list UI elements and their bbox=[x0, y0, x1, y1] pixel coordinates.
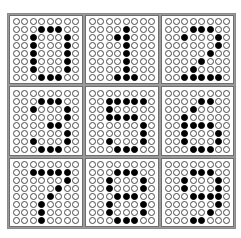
empty-dot-icon bbox=[97, 18, 104, 25]
empty-dot-icon bbox=[114, 106, 121, 113]
empty-dot-icon bbox=[123, 122, 130, 129]
filled-dot-icon bbox=[106, 114, 113, 121]
empty-dot-icon bbox=[97, 185, 104, 192]
empty-dot-icon bbox=[64, 26, 71, 33]
empty-dot-icon bbox=[131, 18, 138, 25]
empty-dot-icon bbox=[165, 193, 172, 200]
empty-dot-icon bbox=[38, 138, 45, 145]
empty-dot-icon bbox=[97, 74, 104, 81]
empty-dot-icon bbox=[13, 122, 20, 129]
empty-dot-icon bbox=[173, 161, 180, 168]
filled-dot-icon bbox=[47, 169, 54, 176]
empty-dot-icon bbox=[13, 98, 20, 105]
empty-dot-icon bbox=[181, 169, 188, 176]
empty-dot-icon bbox=[72, 185, 79, 192]
filled-dot-icon bbox=[215, 74, 222, 81]
empty-dot-icon bbox=[173, 130, 180, 137]
filled-dot-icon bbox=[64, 138, 71, 145]
filled-dot-icon bbox=[207, 74, 214, 81]
empty-dot-icon bbox=[215, 98, 222, 105]
empty-dot-icon bbox=[89, 42, 96, 49]
filled-dot-icon bbox=[64, 66, 71, 73]
empty-dot-icon bbox=[13, 177, 20, 184]
filled-dot-icon bbox=[207, 26, 214, 33]
empty-dot-icon bbox=[89, 177, 96, 184]
filled-dot-icon bbox=[55, 122, 62, 129]
empty-dot-icon bbox=[21, 217, 28, 224]
empty-dot-icon bbox=[89, 130, 96, 137]
filled-dot-icon bbox=[47, 146, 54, 153]
empty-dot-icon bbox=[72, 74, 79, 81]
filled-dot-icon bbox=[123, 193, 130, 200]
empty-dot-icon bbox=[47, 209, 54, 216]
empty-dot-icon bbox=[198, 18, 205, 25]
empty-dot-icon bbox=[21, 201, 28, 208]
filled-dot-icon bbox=[123, 42, 130, 49]
filled-dot-icon bbox=[123, 26, 130, 33]
filled-dot-icon bbox=[30, 106, 37, 113]
filled-dot-icon bbox=[123, 98, 130, 105]
empty-dot-icon bbox=[207, 138, 214, 145]
empty-dot-icon bbox=[72, 138, 79, 145]
empty-dot-icon bbox=[198, 201, 205, 208]
empty-dot-icon bbox=[21, 50, 28, 57]
empty-dot-icon bbox=[72, 217, 79, 224]
empty-dot-icon bbox=[55, 209, 62, 216]
empty-dot-icon bbox=[30, 114, 37, 121]
empty-dot-icon bbox=[106, 122, 113, 129]
filled-dot-icon bbox=[123, 34, 130, 41]
empty-dot-icon bbox=[123, 130, 130, 137]
empty-dot-icon bbox=[140, 169, 147, 176]
empty-dot-icon bbox=[148, 217, 155, 224]
empty-dot-icon bbox=[55, 18, 62, 25]
filled-dot-icon bbox=[106, 209, 113, 216]
empty-dot-icon bbox=[198, 50, 205, 57]
empty-dot-icon bbox=[165, 18, 172, 25]
filled-dot-icon bbox=[131, 74, 138, 81]
empty-dot-icon bbox=[55, 177, 62, 184]
empty-dot-icon bbox=[13, 201, 20, 208]
empty-dot-icon bbox=[30, 185, 37, 192]
empty-dot-icon bbox=[72, 122, 79, 129]
empty-dot-icon bbox=[21, 138, 28, 145]
empty-dot-icon bbox=[21, 42, 28, 49]
empty-dot-icon bbox=[97, 177, 104, 184]
empty-dot-icon bbox=[165, 74, 172, 81]
empty-dot-icon bbox=[123, 90, 130, 97]
empty-dot-icon bbox=[72, 161, 79, 168]
empty-dot-icon bbox=[97, 34, 104, 41]
filled-dot-icon bbox=[64, 177, 71, 184]
filled-dot-icon bbox=[190, 26, 197, 33]
empty-dot-icon bbox=[89, 26, 96, 33]
empty-dot-icon bbox=[13, 185, 20, 192]
filled-dot-icon bbox=[64, 50, 71, 57]
empty-dot-icon bbox=[148, 98, 155, 105]
empty-dot-icon bbox=[72, 50, 79, 57]
empty-dot-icon bbox=[140, 90, 147, 97]
empty-dot-icon bbox=[97, 201, 104, 208]
filled-dot-icon bbox=[181, 122, 188, 129]
empty-dot-icon bbox=[215, 58, 222, 65]
filled-dot-icon bbox=[131, 114, 138, 121]
empty-dot-icon bbox=[123, 138, 130, 145]
empty-dot-icon bbox=[181, 50, 188, 57]
filled-dot-icon bbox=[47, 193, 54, 200]
filled-dot-icon bbox=[131, 169, 138, 176]
empty-dot-icon bbox=[47, 66, 54, 73]
empty-dot-icon bbox=[140, 106, 147, 113]
empty-dot-icon bbox=[198, 106, 205, 113]
empty-dot-icon bbox=[89, 58, 96, 65]
empty-dot-icon bbox=[173, 138, 180, 145]
empty-dot-icon bbox=[223, 50, 230, 57]
empty-dot-icon bbox=[190, 90, 197, 97]
empty-dot-icon bbox=[140, 18, 147, 25]
empty-dot-icon bbox=[173, 201, 180, 208]
empty-dot-icon bbox=[198, 90, 205, 97]
empty-dot-icon bbox=[97, 66, 104, 73]
empty-dot-icon bbox=[148, 138, 155, 145]
digit-cell-3 bbox=[9, 86, 83, 156]
empty-dot-icon bbox=[190, 50, 197, 57]
empty-dot-icon bbox=[173, 98, 180, 105]
empty-dot-icon bbox=[47, 201, 54, 208]
empty-dot-icon bbox=[173, 66, 180, 73]
